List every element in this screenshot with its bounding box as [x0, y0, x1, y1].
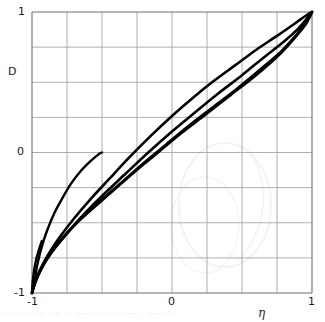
- y-tick-label-1: 1: [18, 6, 25, 17]
- y-tick-label-neg1: -1: [14, 287, 25, 298]
- x-tick-label-1: 1: [308, 296, 315, 307]
- caption-bleed-text: ·· ···· ······ ···· ·· ······ ··· ·· ···…: [0, 309, 325, 322]
- chart-figure: 1 0 -1 -1 0 1 D η ·· ···· ······ ···· ··…: [0, 0, 325, 322]
- x-tick-label-0: 0: [168, 296, 175, 307]
- plot-canvas: [0, 0, 325, 322]
- y-axis-title: D: [8, 66, 16, 77]
- y-tick-label-0: 0: [17, 146, 24, 157]
- x-tick-label-neg1: -1: [27, 296, 38, 307]
